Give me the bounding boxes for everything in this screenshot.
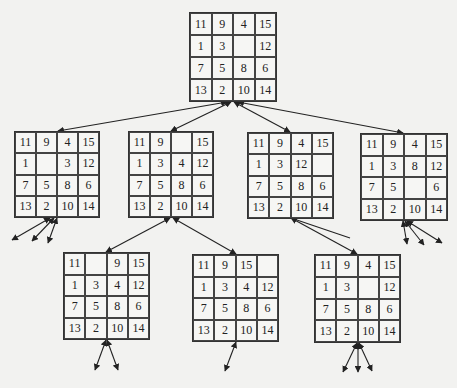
puzzle-tile: 11 <box>248 133 269 154</box>
puzzle-tile: 6 <box>426 177 448 199</box>
puzzle-tile: 14 <box>379 320 400 342</box>
puzzle-tile: 13 <box>190 79 212 101</box>
puzzle-tile: 1 <box>129 153 150 174</box>
puzzle-tile: 14 <box>257 320 278 342</box>
puzzle-tile: 5 <box>36 175 57 196</box>
puzzle-tile: 4 <box>171 153 192 174</box>
puzzle-tile: 4 <box>291 133 312 154</box>
puzzle-tile: 9 <box>212 13 234 35</box>
puzzle-tile: 14 <box>255 79 277 101</box>
puzzle-tile: 8 <box>236 298 257 320</box>
puzzle-tile: 9 <box>150 132 171 153</box>
puzzle-tile: 15 <box>236 255 257 277</box>
puzzle-tile: 7 <box>193 298 214 320</box>
puzzle-tile <box>171 132 192 153</box>
puzzle-tile: 12 <box>257 277 278 299</box>
puzzle-tile: 6 <box>78 175 99 196</box>
puzzle-tile: 11 <box>361 134 383 156</box>
puzzle-tile: 12 <box>128 275 149 297</box>
puzzle-tile: 10 <box>107 318 128 340</box>
puzzle-tile: 9 <box>36 132 57 153</box>
puzzle-tile: 9 <box>383 134 405 156</box>
puzzle-tile: 8 <box>358 299 379 321</box>
puzzle-tile: 8 <box>404 156 426 178</box>
puzzle-tile: 8 <box>107 296 128 318</box>
puzzle-tile: 6 <box>255 57 277 79</box>
puzzle-tile: 8 <box>171 175 192 196</box>
puzzle-tile: 10 <box>57 196 78 217</box>
puzzle-tile: 14 <box>426 199 448 221</box>
puzzle-tile: 2 <box>85 318 106 340</box>
puzzle-tile: 12 <box>192 153 213 174</box>
puzzle-tile: 1 <box>15 153 36 174</box>
board-root: 119415131275861321014 <box>189 12 277 102</box>
puzzle-tile: 4 <box>107 275 128 297</box>
puzzle-tile: 6 <box>128 296 149 318</box>
puzzle-tile: 5 <box>383 177 405 199</box>
puzzle-tile: 3 <box>336 277 357 299</box>
puzzle-tile: 1 <box>248 154 269 175</box>
puzzle-tile: 15 <box>255 13 277 35</box>
puzzle-tile: 3 <box>383 156 405 178</box>
puzzle-tile: 15 <box>312 133 333 154</box>
puzzle-tile: 10 <box>171 196 192 217</box>
puzzle-tile: 12 <box>426 156 448 178</box>
puzzle-tile: 4 <box>236 277 257 299</box>
puzzle-tile: 7 <box>315 299 336 321</box>
puzzle-tile: 3 <box>214 277 235 299</box>
puzzle-tile <box>257 255 278 277</box>
puzzle-tile <box>404 177 426 199</box>
puzzle-tile: 7 <box>190 57 212 79</box>
puzzle-tile: 12 <box>78 153 99 174</box>
puzzle-tile: 11 <box>190 13 212 35</box>
puzzle-tile: 7 <box>361 177 383 199</box>
board-level1-b: 119151341275861321014 <box>128 131 214 218</box>
puzzle-tile: 13 <box>64 318 85 340</box>
puzzle-tile: 2 <box>214 320 235 342</box>
puzzle-tile: 13 <box>193 320 214 342</box>
puzzle-tile: 7 <box>15 175 36 196</box>
puzzle-tile: 1 <box>361 156 383 178</box>
puzzle-tile: 11 <box>64 253 85 275</box>
puzzle-tile: 13 <box>361 199 383 221</box>
puzzle-tile: 10 <box>358 320 379 342</box>
puzzle-tile: 15 <box>78 132 99 153</box>
puzzle-tile: 10 <box>233 79 255 101</box>
puzzle-tile: 1 <box>315 277 336 299</box>
puzzle-tile: 14 <box>78 196 99 217</box>
puzzle-tile: 9 <box>269 133 290 154</box>
puzzle-tile: 7 <box>129 175 150 196</box>
puzzle-tile: 12 <box>379 277 400 299</box>
puzzle-tile: 11 <box>15 132 36 153</box>
puzzle-tile: 8 <box>57 175 78 196</box>
puzzle-tile: 3 <box>269 154 290 175</box>
puzzle-tile: 2 <box>269 197 290 218</box>
puzzle-tile: 4 <box>57 132 78 153</box>
puzzle-tile: 2 <box>150 196 171 217</box>
puzzle-tile: 14 <box>192 196 213 217</box>
puzzle-tile: 6 <box>379 299 400 321</box>
puzzle-tile: 8 <box>233 57 255 79</box>
puzzle-tile: 6 <box>257 298 278 320</box>
puzzle-tile: 9 <box>336 255 357 277</box>
puzzle-tile: 11 <box>315 255 336 277</box>
puzzle-tile: 3 <box>212 35 234 57</box>
puzzle-tile: 5 <box>214 298 235 320</box>
puzzle-tile: 1 <box>190 35 212 57</box>
puzzle-tile: 7 <box>64 296 85 318</box>
puzzle-tile: 1 <box>64 275 85 297</box>
puzzle-tile: 4 <box>404 134 426 156</box>
puzzle-tile: 9 <box>214 255 235 277</box>
puzzle-tile: 6 <box>312 176 333 197</box>
board-level2-c: 119415131275861321014 <box>314 254 401 343</box>
puzzle-tile: 14 <box>312 197 333 218</box>
puzzle-tile: 4 <box>233 13 255 35</box>
puzzle-tile: 3 <box>150 153 171 174</box>
board-level1-d: 119415138127561321014 <box>360 133 448 221</box>
board-level1-c: 119415131275861321014 <box>247 132 334 219</box>
puzzle-tile: 15 <box>426 134 448 156</box>
puzzle-tile: 9 <box>107 253 128 275</box>
puzzle-tile: 13 <box>129 196 150 217</box>
board-level2-a: 119151341275861321014 <box>63 252 150 340</box>
puzzle-tile <box>312 154 333 175</box>
